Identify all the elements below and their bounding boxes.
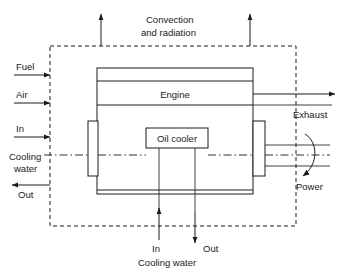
air-label: Air: [16, 89, 28, 100]
fuel-label: Fuel: [16, 61, 34, 72]
cooling-water-left-label-line2: water: [13, 163, 37, 174]
exhaust-pipe: [253, 94, 335, 105]
power-label: Power: [296, 181, 323, 192]
convection-label-line2: and radiation: [141, 27, 196, 38]
engine-right-flange: [253, 121, 265, 176]
bottom-out-label: Out: [203, 243, 219, 254]
convection-label-line1: Convection: [146, 14, 194, 25]
bottom-cooling-water-label: Cooling water: [138, 257, 196, 268]
cooling-water-in-label: In: [16, 123, 24, 134]
engine-label: Engine: [160, 89, 190, 100]
exhaust-label: Exhaust: [293, 109, 328, 120]
bottom-in-label: In: [152, 243, 160, 254]
cooling-water-out-label: Out: [18, 189, 34, 200]
engine-left-flange: [88, 121, 98, 176]
cooling-water-left-label-line1: Cooling: [9, 151, 41, 162]
oil-cooler-label: Oil cooler: [157, 133, 197, 144]
engine-energy-balance-diagram: Convection and radiation Fuel Air In Coo…: [0, 0, 346, 272]
diagram-canvas: Convection and radiation Fuel Air In Coo…: [0, 0, 346, 272]
